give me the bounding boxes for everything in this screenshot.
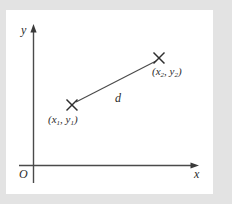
point-1-x-marker bbox=[67, 100, 78, 111]
point-1-label-y-sub: 1 bbox=[70, 119, 74, 127]
y-axis bbox=[30, 24, 36, 183]
point-1-label-x-var: x bbox=[52, 113, 57, 125]
point-2-label: (x2, y2) bbox=[152, 66, 182, 77]
point-2-label-y-sub: 2 bbox=[174, 71, 178, 79]
point-2-x-marker bbox=[154, 53, 165, 64]
y-axis-label: y bbox=[21, 24, 26, 36]
x-axis bbox=[19, 162, 199, 168]
x-axis-label: x bbox=[194, 168, 199, 180]
point-2-label-close: ) bbox=[178, 65, 182, 77]
origin-label: O bbox=[19, 168, 28, 180]
point-1-label-x-sub: 1 bbox=[57, 119, 61, 127]
point-2-label-x-var: x bbox=[156, 65, 161, 77]
point-1-label-close: ) bbox=[74, 113, 78, 125]
point-2-label-x-sub: 2 bbox=[161, 71, 165, 79]
point-1-label: (x1, y1) bbox=[48, 114, 78, 125]
distance-label: d bbox=[115, 92, 121, 104]
figure-root: y x O d (x1, y1) (x2, y2) bbox=[0, 0, 232, 204]
